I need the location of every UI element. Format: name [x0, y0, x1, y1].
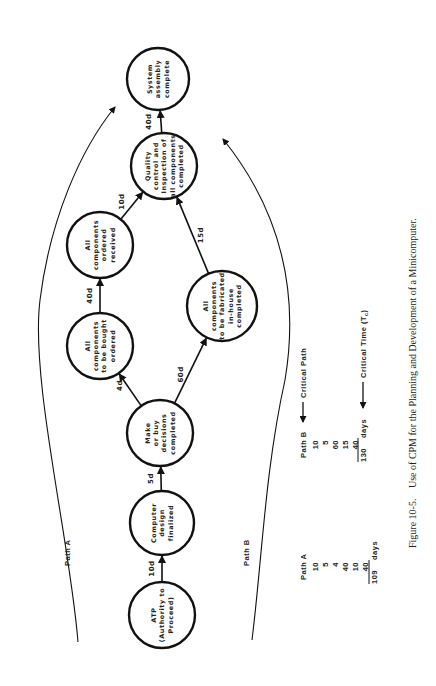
summary-value: 5	[321, 440, 330, 445]
summary-value: 10	[311, 562, 320, 571]
node-bought: Allcomponentsto be boughtordered	[67, 313, 133, 379]
path-b-unit: days	[359, 419, 368, 438]
path-a-total: 109	[370, 570, 379, 584]
node-label-line: (Authority to	[158, 588, 166, 642]
summary-value: 40	[351, 440, 360, 449]
path-b-curve	[223, 139, 290, 640]
cpm-diagram: 10d5d4d40d10d60d15d40d ATP(Authority toP…	[0, 0, 436, 686]
node-label-line: components	[92, 220, 100, 270]
critical-time-text: Critical Time (T	[359, 316, 368, 378]
node-label-line: control and	[152, 142, 160, 190]
edge-label: 60d	[177, 366, 185, 382]
summary-value: 10	[311, 440, 320, 449]
node-label-line: System	[146, 64, 154, 94]
path-a-label: Path A	[63, 539, 72, 566]
node-label-line: All	[84, 239, 92, 250]
node-atp: ATP(Authority toProceed)	[129, 582, 195, 648]
path-a-summary: Path A 1054401040 109 days	[299, 541, 379, 584]
node-label-line: assembly	[154, 59, 162, 98]
node-label-line: Quality	[144, 151, 152, 181]
figure-number: Figure 10-5.	[407, 499, 418, 548]
node-label-line: all components	[169, 134, 177, 197]
edge-quality-system	[160, 111, 162, 133]
node-label-line: completed	[177, 144, 185, 187]
node-label-line: components	[92, 321, 100, 371]
edge-label: 40d	[86, 287, 94, 303]
path-b-summary-title: Path B	[299, 431, 308, 458]
node-label-line: Proceed)	[167, 597, 175, 634]
node-makebuy: Makeor buydecisionscompleted	[127, 400, 193, 466]
node-quality: Qualitycontrol andInspection ofall compo…	[131, 133, 197, 199]
node-label-line: decisions	[160, 413, 168, 452]
node-label-line: Make	[144, 422, 152, 444]
node-label-line: complete	[163, 60, 171, 98]
edge-label: 15d	[197, 227, 205, 243]
node-fabricated: Allcomponentsto be fabricatedin-housecom…	[187, 271, 257, 341]
path-b-label: Path B	[242, 539, 251, 566]
summary-value: 5	[321, 562, 330, 567]
node-label-line: completed	[169, 411, 177, 454]
path-b-total: 130	[359, 448, 368, 462]
node-label-line: ordered	[100, 229, 108, 262]
node-label-line: All	[84, 340, 92, 351]
critical-path-label: Critical Path	[299, 348, 308, 398]
node-label-line: to be fabricated	[218, 272, 226, 339]
node-label-line: ATP	[150, 607, 158, 622]
edge-label: 5d	[147, 473, 155, 484]
node-label-line: components	[210, 281, 218, 331]
node-label-line: completed	[235, 284, 243, 327]
path-a-unit: days	[370, 541, 379, 560]
edge-design-makebuy	[161, 467, 162, 491]
node-received: Allcomponentsorderedreceived	[67, 212, 133, 278]
node-label-line: design	[158, 509, 166, 537]
node-label-line: finalized	[167, 505, 175, 541]
edge-label: 10d	[118, 193, 126, 209]
node-label-line: or buy	[152, 419, 160, 446]
figure-caption-text: Use of CPM for the Planning and Developm…	[407, 218, 418, 488]
summary-value: 40	[341, 562, 350, 571]
path-b-summary: Path B 105601540 130 days Critical Path …	[299, 309, 369, 462]
node-system: Systemassemblycomplete	[127, 48, 189, 110]
summary-value: 4	[331, 562, 340, 567]
node-label-line: All	[202, 300, 210, 311]
node-label-line: Computer	[150, 503, 158, 543]
edge-label: 4d	[116, 380, 124, 391]
path-summary: Path A 1054401040 109 days	[299, 541, 379, 584]
node-label-line: received	[109, 227, 117, 263]
path-a-summary-title: Path A	[299, 553, 308, 580]
edge-label: 10d	[148, 560, 156, 576]
figure-caption: Figure 10-5. Use of CPM for the Planning…	[407, 218, 418, 548]
summary-value: 10	[351, 562, 360, 571]
node-design: Computerdesignfinalized	[130, 491, 194, 555]
critical-time-close: )	[359, 309, 368, 312]
node-label-line: ordered	[109, 330, 117, 363]
node-label-line: Inspection of	[160, 139, 168, 194]
node-label-line: in-house	[227, 288, 235, 324]
edge-label: 40d	[145, 113, 153, 129]
node-label-line: to be bought	[100, 319, 108, 373]
summary-value: 15	[341, 440, 350, 449]
critical-time-label: Critical Time (Tc)	[359, 309, 369, 378]
summary-value: 60	[331, 440, 340, 449]
